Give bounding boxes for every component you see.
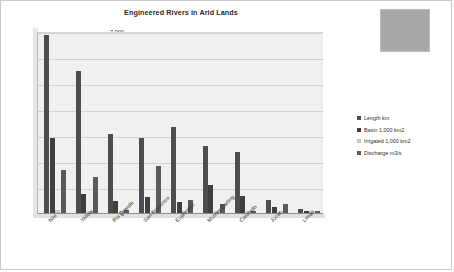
chart-legend: Length kmBasin 1,000 km2Irrigated 1,000 … [357,115,451,161]
bar-group [76,32,98,213]
legend-label: Length km [364,115,389,121]
bar [93,177,98,213]
chart-title: Engineered Rivers in Arid Lands [1,8,361,17]
bar-group [235,32,257,213]
legend-item[interactable]: Irrigated 1,000 km2 [357,138,451,144]
chart-container: Engineered Rivers in Arid Lands 7,0006,0… [0,0,452,270]
bar-group [266,32,288,213]
legend-item[interactable]: Length km [357,115,451,121]
legend-item[interactable]: Basin 1,000 km2 [357,127,451,133]
legend-swatch-icon [357,116,361,120]
bar-group [108,32,130,213]
bar [266,200,271,213]
legend-swatch-icon [357,128,361,132]
bar [81,194,86,214]
bar-group [203,32,225,213]
legend-label: Irrigated 1,000 km2 [364,138,410,144]
legend-swatch-icon [357,151,361,155]
bar [171,127,176,213]
bar [50,138,55,213]
bar [283,204,288,213]
image-placeholder [380,9,430,52]
bar-group [171,32,193,213]
bar [235,152,240,213]
legend-label: Discharge m3/s [364,150,401,156]
legend-item[interactable]: Discharge m3/s [357,150,451,156]
bar [76,71,81,213]
bar [203,146,208,213]
bar [208,185,213,213]
bar-group [139,32,161,213]
bar-group [298,32,320,213]
bar [139,138,144,213]
legend-label: Basin 1,000 km2 [364,127,404,133]
bar [108,134,113,213]
legend-swatch-icon [357,139,361,143]
bar-group [44,32,66,213]
bar [44,35,49,213]
plot-area [37,32,323,214]
bar [240,196,245,213]
bar [61,170,66,213]
